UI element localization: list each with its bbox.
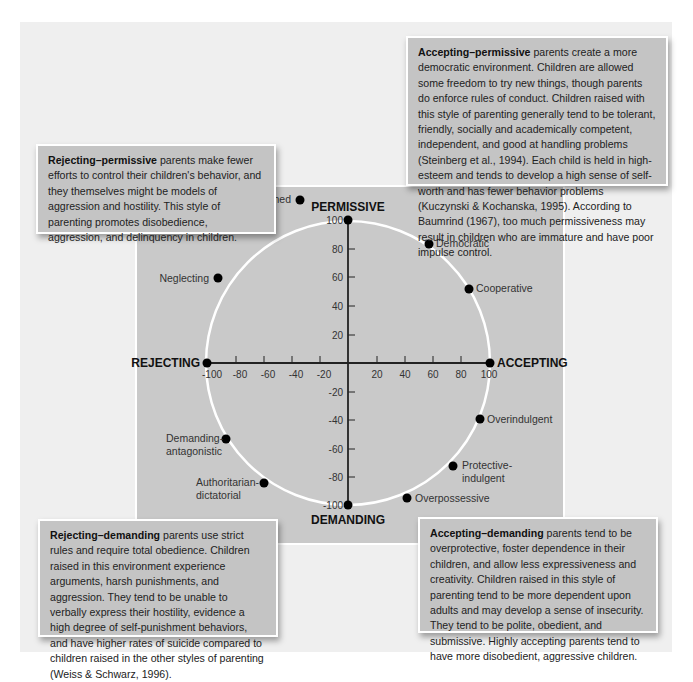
point-cooperative <box>465 285 474 294</box>
callout-body: parents tend to be overprotective, foste… <box>430 527 644 662</box>
axis-end-dot-top <box>344 216 353 225</box>
axis-end-dot-left <box>203 359 212 368</box>
svg-text:100: 100 <box>481 369 498 380</box>
label-neglecting: Neglecting <box>159 272 209 284</box>
label-demanding-2: antagonistic <box>166 445 222 457</box>
svg-text:-20: -20 <box>317 369 332 380</box>
label-demanding-1: Demanding- <box>166 432 224 444</box>
axis-title-permissive: PERMISSIVE <box>311 200 384 214</box>
callout-body: parents create a more democratic environ… <box>418 46 655 258</box>
axis-title-demanding: DEMANDING <box>311 513 385 527</box>
axis-end-dot-bottom <box>344 501 353 510</box>
callout-accepting-demanding: Accepting–demanding parents tend to be o… <box>418 517 658 633</box>
axis-end-dot-right <box>486 359 495 368</box>
svg-text:20: 20 <box>371 369 383 380</box>
svg-text:-60: -60 <box>261 369 276 380</box>
axis-title-rejecting: REJECTING <box>131 356 200 370</box>
svg-text:-40: -40 <box>289 369 304 380</box>
label-overindulgent: Overindulgent <box>487 413 552 425</box>
label-protective-2: indulgent <box>462 472 505 484</box>
svg-text:100: 100 <box>326 215 343 226</box>
svg-text:40: 40 <box>399 369 411 380</box>
svg-text:-60: -60 <box>329 444 344 455</box>
label-overpossessive: Overpossessive <box>415 492 490 504</box>
point-detached <box>296 196 305 205</box>
point-authoritarian-dictatorial <box>260 479 269 488</box>
svg-text:-100: -100 <box>202 369 222 380</box>
callout-title: Rejecting–demanding <box>50 529 160 541</box>
callout-body: parents make fewer efforts to control th… <box>48 154 261 243</box>
svg-text:-80: -80 <box>233 369 248 380</box>
axis-title-accepting: ACCEPTING <box>497 356 568 370</box>
callout-rejecting-permissive: Rejecting–permissive parents make fewer … <box>36 144 276 234</box>
svg-text:60: 60 <box>427 369 439 380</box>
label-cooperative: Cooperative <box>476 282 533 294</box>
svg-text:80: 80 <box>455 369 467 380</box>
callout-accepting-permissive: Accepting–permissive parents create a mo… <box>406 36 668 186</box>
callout-title: Accepting–permissive <box>418 46 530 58</box>
svg-text:60: 60 <box>332 272 344 283</box>
svg-text:-100: -100 <box>323 500 343 511</box>
point-protective-indulgent <box>449 462 458 471</box>
callout-title: Accepting–demanding <box>430 527 544 539</box>
x-tick-labels: -100 -80 -60 -40 -20 20 40 60 80 100 <box>202 369 498 380</box>
svg-text:40: 40 <box>332 301 344 312</box>
svg-text:-40: -40 <box>329 415 344 426</box>
point-overpossessive <box>403 494 412 503</box>
svg-text:-80: -80 <box>329 472 344 483</box>
svg-text:20: 20 <box>332 330 344 341</box>
point-neglecting <box>214 274 223 283</box>
svg-text:80: 80 <box>332 244 344 255</box>
label-protective-1: Protective- <box>462 459 513 471</box>
callout-body: parents use strict rules and require tot… <box>50 529 264 680</box>
label-authoritarian-2: dictatorial <box>196 489 241 501</box>
point-overindulgent <box>476 415 485 424</box>
label-authoritarian-1: Authoritarian- <box>196 476 260 488</box>
callout-title: Rejecting–permissive <box>48 154 157 166</box>
svg-text:-20: -20 <box>329 387 344 398</box>
callout-rejecting-demanding: Rejecting–demanding parents use strict r… <box>38 519 278 637</box>
